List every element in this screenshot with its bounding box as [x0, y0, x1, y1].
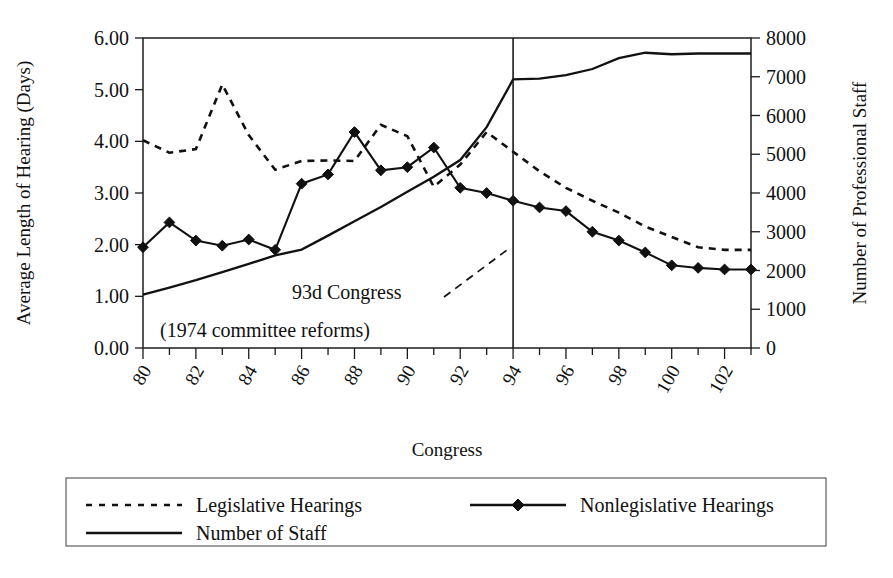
right-tick-label: 5000	[766, 143, 806, 165]
right-tick-label: 3000	[766, 221, 806, 243]
annotation-93d-congress: 93d Congress	[292, 281, 402, 304]
left-tick-label: 0.00	[94, 337, 129, 359]
right-tick-label: 8000	[766, 27, 806, 49]
left-tick-label: 1.00	[94, 285, 129, 307]
right-tick-label: 0	[766, 337, 776, 359]
left-tick-label: 2.00	[94, 234, 129, 256]
annotation-1974-reforms: (1974 committee reforms)	[160, 319, 370, 342]
bottom-axis-title: Congress	[412, 439, 483, 460]
dual-axis-line-chart: 0.001.002.003.004.005.006.00 01000200030…	[0, 0, 893, 578]
left-tick-label: 6.00	[94, 27, 129, 49]
legend-label: Legislative Hearings	[196, 494, 362, 517]
right-tick-label: 1000	[766, 298, 806, 320]
right-axis-tick-labels: 010002000300040005000600070008000	[766, 27, 806, 359]
right-tick-label: 6000	[766, 105, 806, 127]
left-tick-label: 5.00	[94, 79, 129, 101]
right-tick-label: 7000	[766, 66, 806, 88]
left-tick-label: 3.00	[94, 182, 129, 204]
legend-label: Number of Staff	[196, 522, 327, 544]
left-tick-label: 4.00	[94, 130, 129, 152]
right-tick-label: 2000	[766, 260, 806, 282]
right-tick-label: 4000	[766, 182, 806, 204]
chart-figure: 0.001.002.003.004.005.006.00 01000200030…	[0, 0, 893, 578]
legend-label: Nonlegislative Hearings	[580, 494, 774, 517]
right-axis-title: Number of Professional Staff	[849, 81, 870, 305]
left-axis-title: Average Length of Hearing (Days)	[13, 61, 35, 325]
canvas-background	[0, 0, 893, 578]
